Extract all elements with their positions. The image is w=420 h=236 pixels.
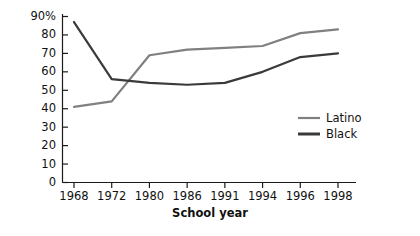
y-axis-tick-label: 20 xyxy=(41,138,56,152)
x-axis-tick-label: 1996 xyxy=(286,189,315,203)
y-axis-tick-label: 80 xyxy=(41,27,56,41)
y-axis-tick-label: 0 xyxy=(49,175,56,189)
y-axis-tick-label: 40 xyxy=(41,101,56,115)
x-axis-tick-label: 1998 xyxy=(323,189,352,203)
y-axis-tick-label: 50 xyxy=(41,83,56,97)
chart-legend: LatinoBlack xyxy=(298,111,361,141)
x-axis-tick-label: 1980 xyxy=(135,189,164,203)
series-line-black xyxy=(74,22,338,85)
y-axis-tick-label: 30 xyxy=(41,120,56,134)
y-axis-tick-label: 90% xyxy=(30,9,56,23)
y-axis-tick-marks xyxy=(63,17,69,183)
legend-label-black: Black xyxy=(326,127,357,141)
data-series-group xyxy=(74,22,338,107)
x-axis-tick-labels: 19681972198019861991199419961998 xyxy=(59,189,352,203)
series-line-latino xyxy=(74,29,338,106)
x-axis-tick-label: 1986 xyxy=(173,189,202,203)
x-axis-tick-label: 1972 xyxy=(97,189,126,203)
x-axis-tick-marks xyxy=(74,183,338,189)
chart-canvas: 90%80706050403020100 1968197219801986199… xyxy=(0,0,420,236)
y-axis-tick-label: 60 xyxy=(41,64,56,78)
legend-label-latino: Latino xyxy=(326,111,361,125)
line-chart: 90%80706050403020100 1968197219801986199… xyxy=(0,0,420,236)
y-axis-tick-label: 10 xyxy=(41,157,56,171)
x-axis-tick-label: 1968 xyxy=(59,189,88,203)
x-axis-title: School year xyxy=(172,206,248,220)
y-axis-tick-labels: 90%80706050403020100 xyxy=(30,9,56,189)
x-axis-tick-label: 1991 xyxy=(210,189,239,203)
x-axis-tick-label: 1994 xyxy=(248,189,277,203)
y-axis-tick-label: 70 xyxy=(41,46,56,60)
